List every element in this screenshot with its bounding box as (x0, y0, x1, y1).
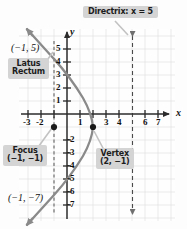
bottom-endpoint-label: (−1, −7) (8, 192, 43, 203)
y-tick-label-2: 2 (56, 82, 61, 92)
y-tick-label-5: 5 (56, 43, 61, 53)
y-tick-label-neg2: -2 (67, 134, 75, 144)
y-tick-label-neg7: -7 (67, 199, 75, 209)
latus-rectum-callout-line2: Rectum (12, 68, 45, 76)
latus-rectum-callout: Latus Rectum (8, 58, 49, 79)
focus-callout: Focus (−1, −1) (3, 145, 47, 166)
vertex-callout-line2: (2, −1) (100, 158, 130, 166)
y-tick-label-neg5: -5 (67, 173, 75, 183)
y-tick-label-neg3: -3 (67, 147, 75, 157)
y-tick-label-1: 1 (56, 95, 61, 105)
parabola-figure: x y -3 -2 1 3 4 6 7 5 4 3 2 1 -2 -3 -4 -… (0, 0, 187, 229)
y-tick-label-neg6: -6 (67, 186, 75, 196)
focus-callout-line2: (−1, −1) (7, 155, 43, 163)
directrix-callout: Directrix: x = 5 (83, 6, 158, 18)
x-tick-label-1: 1 (78, 117, 83, 127)
y-tick-label-3: 3 (56, 69, 61, 79)
y-tick-label-4: 4 (56, 56, 61, 66)
x-tick-label-neg3: -3 (23, 117, 31, 127)
x-axis-name: x (176, 107, 181, 118)
x-tick-label-4: 4 (117, 117, 122, 127)
focus-point-dot (51, 124, 57, 130)
x-tick-label-7: 7 (156, 117, 161, 127)
vertex-callout: Vertex (2, −1) (96, 148, 134, 169)
vertex-point-dot (90, 124, 96, 130)
x-tick-label-6: 6 (143, 117, 148, 127)
x-tick-label-3: 3 (104, 117, 109, 127)
y-tick-label-neg4: -4 (67, 160, 75, 170)
x-tick-label-neg2: -2 (36, 117, 44, 127)
top-endpoint-label: (−1, 5) (11, 42, 39, 53)
y-axis-name: y (70, 26, 74, 37)
